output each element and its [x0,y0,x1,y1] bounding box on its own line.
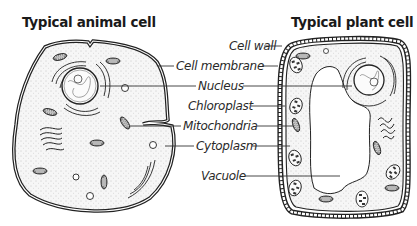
animal-nucleus-icon [62,68,98,104]
label-cell-membrane: Cell membrane [176,59,264,73]
label-cytoplasm: Cytoplasm [196,139,257,153]
plant-nucleus-icon [354,65,384,95]
label-mitochondria: Mitochondria [183,119,258,133]
label-chloroplast: Chloroplast [188,99,253,113]
cell-diagram [0,0,417,226]
label-nucleus: Nucleus [198,79,244,93]
plant-cell [280,39,409,217]
label-cell-wall: Cell wall [229,39,276,53]
label-vacuole: Vacuole [201,169,246,183]
